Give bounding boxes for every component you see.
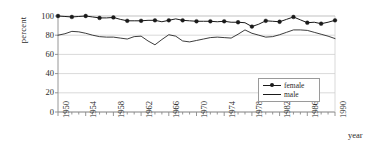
x-tick-label: 1982 [283,101,292,118]
x-tick-label: 1970 [200,101,209,118]
x-tick-label: 1986 [311,101,320,118]
legend-label: male [284,91,299,99]
x-tick-label: 1954 [89,101,98,118]
x-axis-tick-labels: 1950195419581962196619701974197819821986… [0,0,378,147]
x-tick-label: 1962 [145,101,154,118]
x-tick-label: 1950 [62,101,71,118]
chart-container: percent year 020406080100 19501954195819… [0,0,378,147]
legend-swatch-male [262,90,282,99]
x-tick-label: 1978 [255,101,264,118]
legend: femalemale [258,78,320,102]
x-tick-label: 1958 [117,101,126,118]
x-tick-label: 1974 [228,101,237,118]
legend-label: female [284,82,304,90]
legend-item-female: female [262,81,316,90]
legend-item-male: male [262,90,316,99]
legend-swatch-female [262,81,282,90]
x-tick-label: 1966 [172,101,181,118]
x-tick-label: 1990 [339,101,348,118]
